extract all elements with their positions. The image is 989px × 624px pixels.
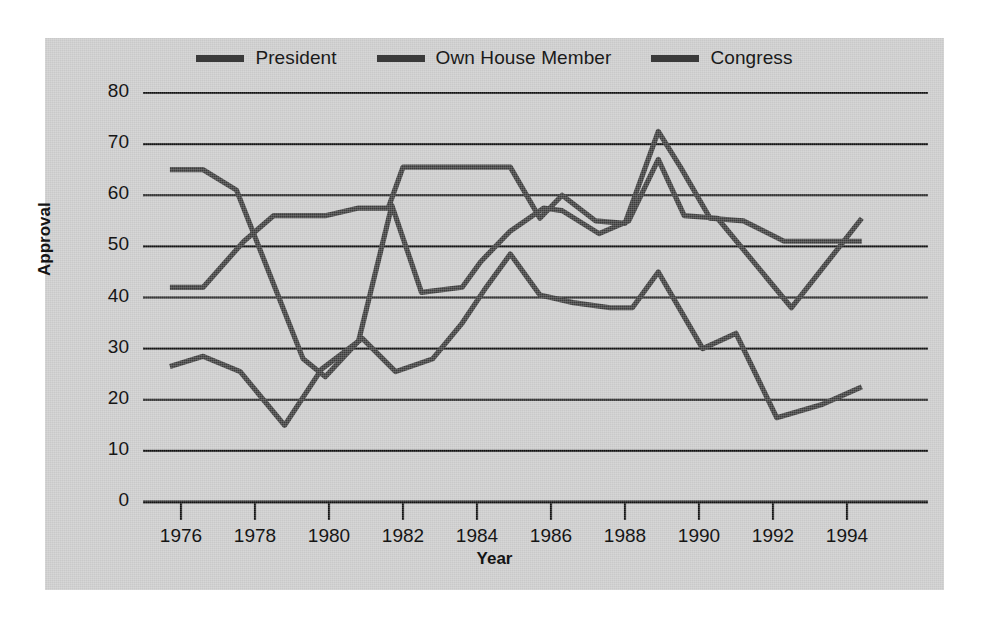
x-tick-label: 1986 bbox=[516, 525, 586, 547]
chart-plot-area bbox=[45, 38, 944, 590]
x-tick-label: 1976 bbox=[146, 525, 216, 547]
y-tick-label: 80 bbox=[83, 80, 129, 102]
y-tick-label: 0 bbox=[83, 489, 129, 511]
y-tick-label: 50 bbox=[83, 233, 129, 255]
y-tick-label: 20 bbox=[83, 387, 129, 409]
legend-item-congress: Congress bbox=[651, 47, 792, 69]
legend-item-president: President bbox=[196, 47, 336, 69]
y-axis-title: Approval bbox=[35, 202, 55, 276]
x-tick-label: 1992 bbox=[738, 525, 808, 547]
x-tick-label: 1978 bbox=[220, 525, 290, 547]
x-axis-title: Year bbox=[45, 549, 944, 569]
series-line-congress bbox=[170, 159, 862, 376]
y-tick-label: 70 bbox=[83, 131, 129, 153]
legend-item-own-house-member: Own House Member bbox=[377, 47, 612, 69]
legend-swatch-own-house-member bbox=[377, 55, 425, 62]
x-tick-label: 1982 bbox=[368, 525, 438, 547]
y-tick-label: 40 bbox=[83, 285, 129, 307]
y-tick-label: 30 bbox=[83, 336, 129, 358]
x-tick-label: 1994 bbox=[812, 525, 882, 547]
legend-label-congress: Congress bbox=[710, 47, 792, 69]
chart-figure: President Own House Member Congress Appr… bbox=[45, 38, 944, 590]
x-tick-label: 1984 bbox=[442, 525, 512, 547]
legend-swatch-president bbox=[196, 55, 244, 62]
legend-swatch-congress bbox=[651, 55, 699, 62]
x-tick-label: 1988 bbox=[590, 525, 660, 547]
x-tick-label: 1980 bbox=[294, 525, 364, 547]
legend-label-own-house-member: Own House Member bbox=[436, 47, 612, 69]
y-tick-label: 60 bbox=[83, 182, 129, 204]
x-tick-label: 1990 bbox=[664, 525, 734, 547]
chart-legend: President Own House Member Congress bbox=[45, 38, 944, 78]
y-tick-label: 10 bbox=[83, 438, 129, 460]
legend-label-president: President bbox=[255, 47, 336, 69]
